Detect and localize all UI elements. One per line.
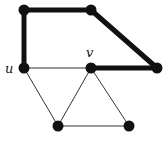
edge-u-d [24,68,58,126]
label-v: v [86,45,94,60]
node-c [152,63,163,74]
node-e [124,121,135,132]
graph-diagram: u v [0,0,167,141]
edge-v-d [58,68,91,126]
edge-v-e [91,68,129,126]
node-d [53,121,64,132]
label-u: u [5,61,13,76]
bold-edge-b-c [91,10,157,68]
node-u [19,63,30,74]
node-v [86,63,97,74]
node-a [19,5,30,16]
node-b [86,5,97,16]
